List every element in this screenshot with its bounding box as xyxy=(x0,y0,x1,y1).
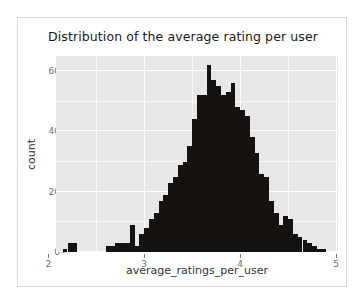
histogram-bar xyxy=(322,249,327,252)
x-axis-tick-mark xyxy=(336,254,337,258)
gridline-major-vertical xyxy=(336,56,337,252)
x-axis-tick-mark xyxy=(240,254,241,258)
x-axis-tick-mark xyxy=(144,254,145,258)
y-axis-label: count xyxy=(26,138,39,169)
y-axis-label-container: count xyxy=(24,56,40,252)
x-axis-tick-mark xyxy=(48,254,49,258)
gridline-major-horizontal xyxy=(56,70,338,71)
chart-title: Distribution of the average rating per u… xyxy=(18,29,348,44)
gridline-major-vertical xyxy=(144,56,145,252)
gridline-minor-vertical xyxy=(96,56,97,252)
plot-panel xyxy=(56,56,338,252)
histogram-bar xyxy=(72,243,77,252)
chart-figure: Distribution of the average rating per u… xyxy=(17,17,347,287)
x-axis-tick-label: 2 xyxy=(45,259,51,269)
x-axis-label: average_ratings_per_user xyxy=(56,264,338,277)
